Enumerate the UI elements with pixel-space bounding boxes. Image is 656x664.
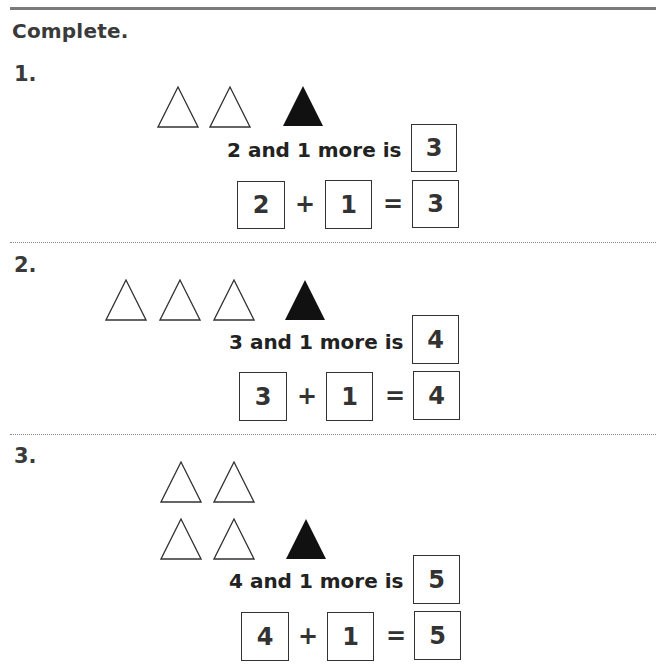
addend2-box[interactable]: 1	[325, 180, 372, 229]
plus-sign: +	[298, 622, 318, 650]
outline-triangle-icon	[213, 461, 255, 503]
addend1-box[interactable]: 3	[239, 372, 287, 421]
outline-triangle-icon	[159, 279, 201, 321]
filled-triangle-icon	[285, 518, 327, 560]
sum-box[interactable]: 3	[412, 180, 459, 228]
equals-sign: =	[383, 190, 403, 218]
page-title: Complete.	[12, 19, 129, 43]
outline-triangle-icon	[157, 86, 199, 128]
phrase-text: 2 and 1 more is	[227, 138, 402, 162]
filled-triangle-icon	[284, 279, 326, 321]
outline-triangle-icon	[105, 279, 147, 321]
phrase-answer-box[interactable]: 3	[411, 124, 457, 172]
addend2-box[interactable]: 1	[326, 372, 373, 421]
phrase-answer-box[interactable]: 5	[413, 555, 460, 604]
problem-number: 2.	[14, 253, 37, 277]
addend1-box[interactable]: 2	[237, 181, 285, 229]
sum-box[interactable]: 5	[414, 611, 461, 660]
phrase-text: 4 and 1 more is	[229, 569, 404, 593]
outline-triangle-icon	[213, 279, 255, 321]
phrase-answer-box[interactable]: 4	[412, 315, 459, 364]
outline-triangle-icon	[160, 461, 202, 503]
filled-triangle-icon	[282, 85, 324, 127]
phrase-text: 3 and 1 more is	[229, 330, 404, 354]
section-divider	[10, 434, 656, 435]
outline-triangle-icon	[213, 518, 255, 560]
section-divider	[10, 242, 656, 243]
addend2-box[interactable]: 1	[327, 612, 374, 661]
problem-number: 1.	[14, 62, 37, 86]
top-rule	[10, 7, 656, 10]
sum-box[interactable]: 4	[413, 371, 460, 420]
outline-triangle-icon	[209, 86, 251, 128]
plus-sign: +	[297, 382, 317, 410]
equals-sign: =	[385, 382, 405, 410]
plus-sign: +	[295, 190, 315, 218]
addend1-box[interactable]: 4	[241, 612, 289, 661]
equals-sign: =	[386, 622, 406, 650]
outline-triangle-icon	[160, 518, 202, 560]
problem-number: 3.	[14, 444, 37, 468]
